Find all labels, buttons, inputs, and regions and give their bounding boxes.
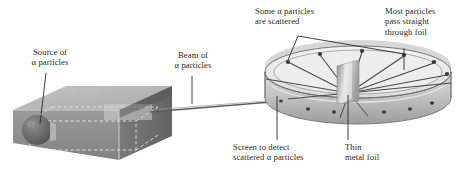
label-source: Source of α particles <box>7 47 93 68</box>
label-pass-through: Most particles pass straight through foi… <box>385 6 455 37</box>
label-foil: Thin metal foil <box>345 142 415 163</box>
diagram-canvas: Source of α particles Beam of α particle… <box>0 0 456 180</box>
label-scattered: Some α particles are scattered <box>255 6 365 27</box>
label-screen: Screen to detect scattered α particles <box>233 142 353 163</box>
label-beam: Beam of α particles <box>152 50 234 71</box>
source-box <box>13 86 172 160</box>
